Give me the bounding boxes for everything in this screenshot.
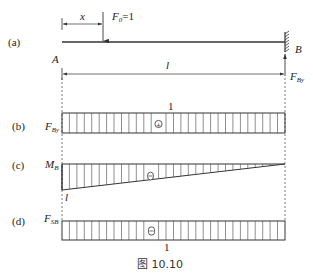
support-a-label: A [51, 53, 59, 65]
panel-c-influence-line-mb: (c) MB l [12, 158, 285, 203]
panel-d-tag: (d) [12, 215, 25, 228]
panel-b-tag: (b) [12, 120, 25, 133]
fixed-support-icon [285, 31, 289, 52]
figure-caption: 图 10.10 [137, 258, 183, 271]
panel-c-value: l [65, 191, 68, 203]
panel-d-influence-line-fsb: (d) FSB 1 [12, 212, 285, 253]
guide-lines [62, 78, 285, 221]
span-label: l [166, 59, 169, 71]
reaction-label: FBy [289, 70, 305, 84]
panel-b-influence-line-fby: (b) FBy + 1 [12, 100, 285, 134]
panel-a-tag: (a) [8, 36, 21, 49]
panel-d-quantity: FSB [43, 212, 59, 226]
minus-sign-icon [149, 227, 155, 235]
x-dimension-label: x [79, 10, 85, 22]
panel-a-beam: (a) A B F0=1 x l FBy [8, 10, 305, 84]
support-b-label: B [295, 43, 302, 55]
unit-load-label: F0=1 [111, 10, 134, 24]
panel-c-tag: (c) [12, 159, 25, 172]
panel-d-value: 1 [164, 241, 170, 253]
influence-line-diagram: (a) A B F0=1 x l FBy (b) [0, 0, 313, 279]
panel-b-quantity: FBy [44, 120, 60, 134]
panel-c-quantity: MB [44, 158, 59, 172]
minus-sign-icon [148, 172, 154, 180]
svg-text:+: + [156, 121, 161, 128]
panel-b-value: 1 [168, 100, 174, 112]
plus-sign-icon: + [155, 120, 162, 127]
